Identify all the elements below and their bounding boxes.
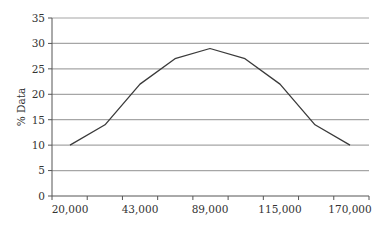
y-axis-title: % Data	[15, 88, 27, 126]
x-tick-label: 115,000	[258, 203, 301, 215]
y-tick-label: 20	[32, 88, 45, 100]
y-tick-label: 0	[38, 190, 45, 202]
y-tick-label: 35	[32, 12, 45, 24]
x-tick-label: 20,000	[52, 203, 89, 215]
y-tick-label: 30	[32, 37, 45, 49]
y-tick-label: 5	[38, 164, 45, 176]
y-tick-label: 25	[32, 63, 45, 75]
gridlines	[52, 18, 369, 171]
x-axis: 20,00043,00089,000115,000170,000	[52, 196, 372, 215]
x-tick-label: 170,000	[328, 203, 371, 215]
x-tick-label: 89,000	[192, 203, 229, 215]
line-chart: 05101520253035 20,00043,00089,000115,000…	[0, 0, 387, 228]
y-axis: 05101520253035	[32, 12, 52, 202]
y-tick-label: 15	[32, 114, 45, 126]
y-tick-label: 10	[32, 139, 45, 151]
data-series-line	[70, 49, 350, 146]
x-tick-label: 43,000	[122, 203, 159, 215]
